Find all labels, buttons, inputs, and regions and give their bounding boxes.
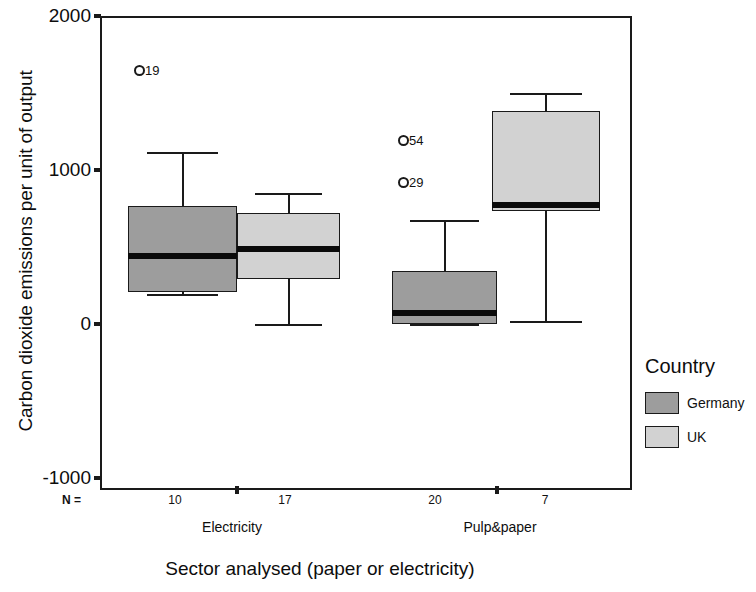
whisker-cap-lower [410, 324, 479, 326]
box-plot-chart: Carbon dioxide emissions per unit of out… [0, 0, 756, 592]
outlier-label: 54 [409, 133, 423, 148]
y-tick-label: 1000 [0, 159, 91, 181]
box-germany-electricity [128, 206, 237, 291]
outlier-point: 19 [134, 61, 159, 79]
n-value: 20 [405, 493, 465, 507]
whisker-upper [444, 220, 446, 271]
legend-label: Germany [687, 395, 745, 411]
legend: Country GermanyUK [645, 355, 756, 460]
x-tick-mark [495, 486, 499, 494]
median-line [392, 310, 497, 316]
outlier-circle-icon [134, 65, 145, 76]
median-line [128, 253, 237, 259]
n-value: 7 [515, 493, 575, 507]
category-label: Pulp&paper [400, 519, 600, 535]
y-tick-label: 0 [0, 313, 91, 335]
median-line [237, 246, 340, 252]
whisker-upper [182, 152, 184, 207]
y-tick-mark [94, 476, 101, 480]
legend-label: UK [687, 429, 706, 445]
x-axis-title: Sector analysed (paper or electricity) [60, 558, 580, 580]
median-line [492, 202, 600, 208]
outlier-label: 29 [409, 175, 423, 190]
outlier-circle-icon [398, 177, 409, 188]
whisker-lower [545, 211, 547, 321]
whisker-cap-lower [147, 294, 219, 296]
whisker-cap-upper [147, 152, 219, 154]
y-tick-mark [94, 14, 101, 18]
legend-title: Country [645, 355, 756, 378]
box-uk-pulppaper [492, 111, 600, 211]
y-tick-label: 2000 [0, 5, 91, 27]
n-equals-prefix: N = [62, 493, 81, 507]
outlier-label: 19 [145, 63, 159, 78]
outlier-point: 54 [398, 131, 423, 149]
whisker-cap-upper [255, 193, 323, 195]
n-value: 10 [145, 493, 205, 507]
outlier-point: 29 [398, 172, 423, 190]
whisker-upper [545, 93, 547, 111]
whisker-lower [288, 279, 290, 324]
y-axis-title: Carbon dioxide emissions per unit of out… [15, 11, 37, 491]
whisker-cap-upper [410, 220, 479, 222]
legend-item: Germany [645, 392, 756, 414]
y-tick-mark [94, 168, 101, 172]
y-tick-mark [94, 322, 101, 326]
legend-swatch [645, 426, 679, 448]
n-value: 17 [255, 493, 315, 507]
legend-item: UK [645, 426, 756, 448]
whisker-cap-lower [510, 321, 581, 323]
whisker-cap-lower [255, 324, 323, 326]
y-tick-label: -1000 [0, 467, 91, 489]
category-label: Electricity [132, 519, 332, 535]
outlier-circle-icon [398, 135, 409, 146]
legend-swatch [645, 392, 679, 414]
x-tick-mark [235, 486, 239, 494]
legend-items: GermanyUK [645, 392, 756, 448]
whisker-cap-upper [510, 93, 581, 95]
whisker-upper [288, 193, 290, 213]
